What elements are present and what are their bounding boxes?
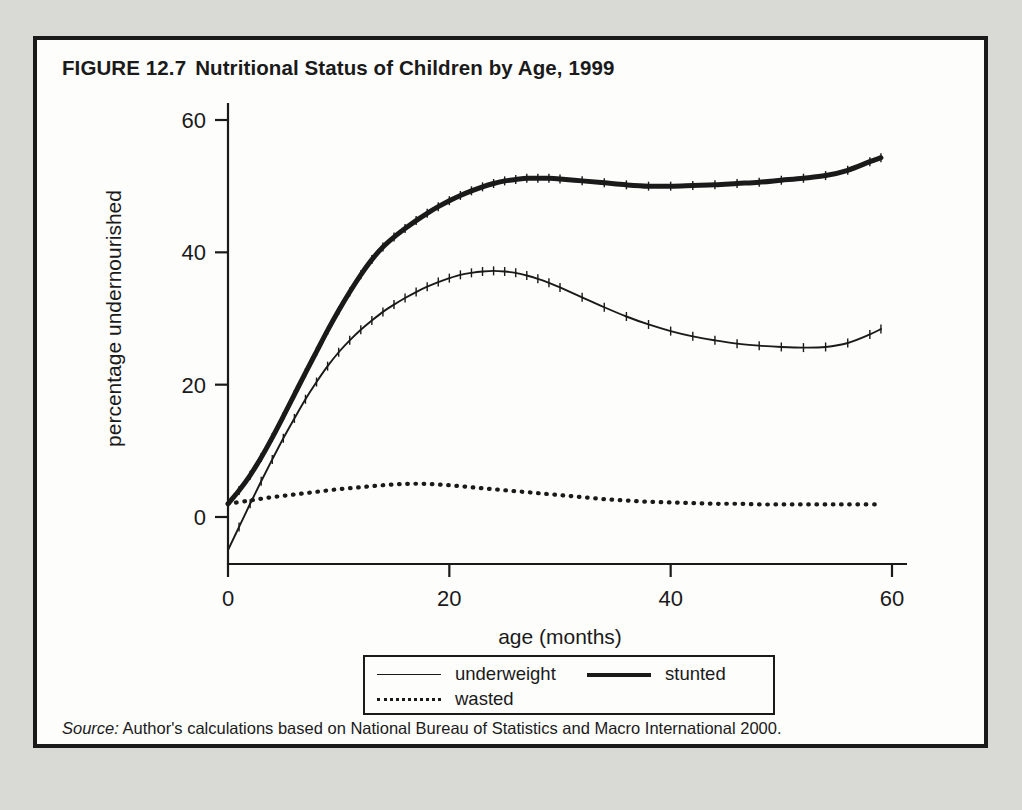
y-tick-label: 0 (194, 505, 206, 530)
legend-label-stunted: stunted (665, 663, 726, 685)
x-tick-label: 20 (437, 586, 461, 611)
x-tick-label: 60 (880, 586, 904, 611)
x-tick-label: 40 (658, 586, 682, 611)
legend-key-dotted-line-icon (377, 692, 441, 706)
source-note: Source: Author's calculations based on N… (62, 719, 782, 738)
y-tick-label: 40 (182, 240, 206, 265)
chart-plot-area: 02040600204060age (months)percentage und… (37, 40, 992, 752)
y-axis-label: percentage undernourished (102, 190, 125, 447)
figure-page: FIGURE 12.7Nutritional Status of Childre… (0, 0, 1022, 810)
source-text: Author's calculations based on National … (119, 719, 782, 737)
x-tick-label: 0 (222, 586, 234, 611)
line-underweight (228, 271, 881, 550)
y-tick-label: 60 (182, 108, 206, 133)
y-tick-label: 20 (182, 373, 206, 398)
legend-key-thin-line-icon (377, 667, 441, 681)
series-wasted (228, 484, 881, 505)
nutrition-line-chart: 02040600204060age (months)percentage und… (37, 40, 992, 752)
figure-frame: FIGURE 12.7Nutritional Status of Childre… (33, 36, 988, 748)
source-label: Source: (62, 719, 119, 737)
legend-item-wasted: wasted (377, 688, 514, 710)
x-axis-label: age (months) (498, 625, 622, 648)
legend-label-underweight: underweight (455, 663, 556, 685)
legend-item-underweight: underweight (377, 663, 556, 685)
series-stunted (228, 153, 881, 504)
legend-key-thick-line-icon (587, 667, 651, 681)
chart-legend: underweight stunted wasted (363, 655, 775, 715)
line-stunted (228, 158, 881, 504)
legend-item-stunted: stunted (587, 663, 726, 685)
line-wasted (228, 484, 881, 505)
legend-label-wasted: wasted (455, 688, 514, 710)
series-underweight (228, 266, 881, 550)
